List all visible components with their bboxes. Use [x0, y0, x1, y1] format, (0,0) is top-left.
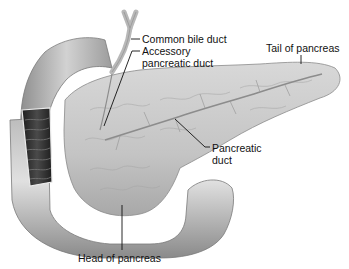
- common-bile-duct-shape: [112, 12, 136, 72]
- pancreas-diagram: Common bile duct Accessory pancreatic du…: [0, 0, 349, 269]
- label-pancreatic-duct-line1: Pancreatic: [212, 142, 262, 154]
- label-accessory-duct-line1: Accessory: [142, 45, 190, 57]
- label-head-of-pancreas: Head of pancreas: [78, 252, 161, 264]
- label-accessory-duct-line2: pancreatic duct: [142, 57, 213, 69]
- label-common-bile-duct: Common bile duct: [142, 33, 227, 45]
- label-pancreatic-duct-line2: duct: [212, 154, 232, 166]
- label-tail-of-pancreas: Tail of pancreas: [266, 42, 340, 54]
